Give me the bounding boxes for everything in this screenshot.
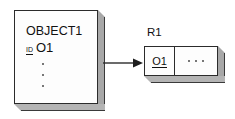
object-card-title: OBJECT1 xyxy=(26,24,82,38)
object-card-id-row: ID O1 xyxy=(26,41,53,55)
ellipsis-dot xyxy=(202,60,204,62)
object-card-3d-bottom xyxy=(21,104,105,111)
relation-table-3d-side-bevel xyxy=(218,46,225,53)
relation-cell-key[interactable]: O1 xyxy=(145,47,175,75)
relation-table-face: O1 xyxy=(144,46,218,76)
horizontal-ellipsis-icon xyxy=(188,60,204,62)
ellipsis-dot xyxy=(188,60,190,62)
object-card[interactable]: OBJECT1 ID O1 xyxy=(14,10,98,104)
relation-label: R1 xyxy=(147,26,162,38)
relation-table-3d-side xyxy=(218,53,225,76)
object-card-3d-side-bevel xyxy=(98,10,105,17)
arrow-right-icon xyxy=(103,54,143,64)
relation-table[interactable]: R1 O1 xyxy=(144,46,218,76)
ellipsis-dot xyxy=(42,74,44,76)
object-card-vertical-ellipsis-icon xyxy=(42,63,44,87)
object-card-face: OBJECT1 ID O1 xyxy=(14,10,98,104)
diagram-canvas: OBJECT1 ID O1 R1 O1 xyxy=(0,0,235,119)
ellipsis-dot xyxy=(195,60,197,62)
relation-cell-key-text: O1 xyxy=(152,55,167,68)
ellipsis-dot xyxy=(42,85,44,87)
object-card-id-value: O1 xyxy=(36,41,53,54)
relation-cell-rest[interactable] xyxy=(175,47,217,75)
relation-table-3d-bottom xyxy=(151,76,225,83)
ellipsis-dot xyxy=(42,63,44,65)
relation-table-3d-bottom-bevel xyxy=(144,76,151,83)
object-card-3d-bottom-bevel xyxy=(14,104,21,111)
object-card-id-key: ID xyxy=(26,46,33,55)
